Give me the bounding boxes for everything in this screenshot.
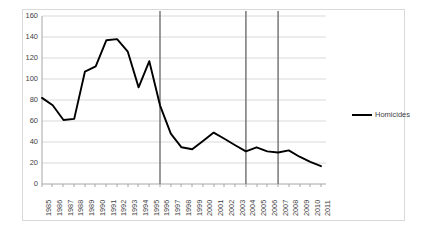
x-tick-2011: 2011 bbox=[324, 200, 332, 216]
x-tick-2009: 2009 bbox=[303, 200, 311, 216]
x-tick-1989: 1989 bbox=[88, 200, 96, 216]
x-tick-1986: 1986 bbox=[56, 200, 64, 216]
x-tick-1987: 1987 bbox=[67, 200, 75, 216]
homicides-line-chart: 160 140 120 100 80 60 40 20 0 bbox=[0, 0, 427, 237]
x-tick-2005: 2005 bbox=[260, 200, 268, 216]
x-tick-1993: 1993 bbox=[131, 200, 139, 216]
x-tick-2003: 2003 bbox=[239, 200, 247, 216]
x-tick-1996: 1996 bbox=[163, 200, 171, 216]
x-tick-2001: 2001 bbox=[217, 200, 225, 216]
x-tick-1992: 1992 bbox=[120, 200, 128, 216]
x-tick-1985: 1985 bbox=[45, 200, 53, 216]
x-tick-2008: 2008 bbox=[292, 200, 300, 216]
x-tick-1991: 1991 bbox=[110, 200, 118, 216]
x-tick-1997: 1997 bbox=[174, 200, 182, 216]
x-tick-1995: 1995 bbox=[153, 200, 161, 216]
x-tick-1998: 1998 bbox=[185, 200, 193, 216]
x-tick-2006: 2006 bbox=[271, 200, 279, 216]
legend-line-swatch-homicides bbox=[352, 114, 372, 116]
x-tick-2004: 2004 bbox=[249, 200, 257, 216]
horizontal-gridlines bbox=[42, 16, 326, 163]
x-tick-1988: 1988 bbox=[77, 200, 85, 216]
chart-legend: Homicides bbox=[352, 111, 410, 119]
x-tick-2000: 2000 bbox=[206, 200, 214, 216]
x-tick-2010: 2010 bbox=[314, 200, 322, 216]
x-tick-2007: 2007 bbox=[282, 200, 290, 216]
x-tick-1990: 1990 bbox=[99, 200, 107, 216]
x-tick-1999: 1999 bbox=[196, 200, 204, 216]
x-tick-2002: 2002 bbox=[228, 200, 236, 216]
legend-label-homicides: Homicides bbox=[375, 111, 410, 119]
x-tick-1994: 1994 bbox=[142, 200, 150, 216]
